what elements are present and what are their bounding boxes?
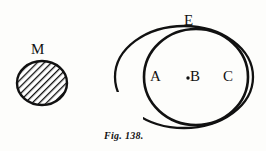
label-a: A (150, 69, 161, 84)
figure-caption: Fig. 138. (104, 131, 144, 141)
label-b: B (190, 69, 200, 84)
figure-138: M E A B C Fig. 138. (0, 0, 266, 151)
label-e: E (184, 13, 193, 28)
label-m: M (31, 42, 44, 57)
hatched-circle-m (17, 61, 67, 105)
label-c: C (223, 69, 233, 84)
